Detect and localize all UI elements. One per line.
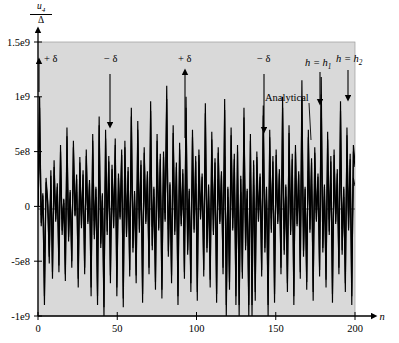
annotation-label-plus-delta-2: + δ bbox=[178, 53, 192, 64]
figure-container: u4 Δ -1e9-5e805e8 bbox=[0, 0, 399, 343]
x-tick-label: 150 bbox=[268, 323, 284, 334]
y-tick-label: 0 bbox=[25, 201, 30, 212]
annotation-label-plus-delta-1: + δ bbox=[44, 53, 58, 64]
y-tick-label: -5e8 bbox=[11, 256, 30, 267]
annotation-label-analytical: Analytical bbox=[265, 92, 309, 103]
chart-svg: -1e9-5e805e81e91.5e9 050100150200 + δ− δ… bbox=[0, 0, 399, 343]
x-tick-label: 100 bbox=[189, 323, 205, 334]
x-axis-title: n bbox=[379, 311, 384, 322]
x-axis-tick-labels: 050100150200 bbox=[35, 323, 363, 334]
y-tick-label: 1e9 bbox=[15, 91, 30, 102]
x-tick-label: 0 bbox=[35, 323, 40, 334]
y-tick-label: -1e9 bbox=[11, 311, 30, 322]
annotation-label-minus-delta-1: − δ bbox=[104, 53, 118, 64]
y-axis-tick-labels: -1e9-5e805e81e91.5e9 bbox=[7, 37, 30, 322]
y-tick-label: 1.5e9 bbox=[7, 37, 30, 48]
y-tick-label: 5e8 bbox=[15, 146, 30, 157]
x-tick-label: 200 bbox=[347, 323, 363, 334]
annotation-label-minus-delta-2: − δ bbox=[257, 53, 271, 64]
x-tick-label: 50 bbox=[112, 323, 123, 334]
